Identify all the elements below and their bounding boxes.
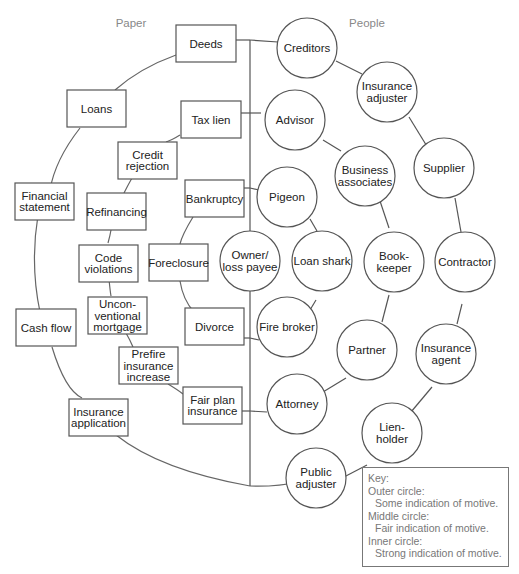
node-label: Foreclosure: [148, 257, 209, 269]
connector: [250, 338, 259, 340]
node-label: Cash flow: [21, 322, 72, 334]
node-label: Bankruptcy: [186, 193, 244, 205]
people-outer-creditors: Creditors: [277, 18, 337, 78]
node-label: application: [71, 417, 126, 429]
connector: [250, 40, 278, 42]
node-label: Code: [95, 252, 123, 264]
node-label: insurance: [188, 405, 238, 417]
paper-outer-cash-flow: Cash flow: [16, 309, 76, 346]
middle-ring-arc: [166, 135, 180, 142]
people-center-owner-loss-payee: Owner/loss payee: [220, 231, 280, 291]
node-label: Insurance: [362, 80, 413, 92]
node-label: Lien-: [379, 421, 405, 433]
inner-ring-arc: [180, 281, 194, 312]
connector: [411, 387, 432, 412]
paper-middle-credit-rejection: Creditrejection: [118, 142, 177, 179]
connector: [310, 219, 317, 231]
node-label: Public: [300, 466, 332, 478]
node-label: Fire broker: [259, 321, 315, 333]
key-middle-label: Middle circle:: [368, 510, 503, 523]
outer-ring-arc: [50, 128, 80, 190]
node-label: Prefire: [132, 348, 166, 360]
middle-ring-arc: [124, 178, 132, 193]
node-label: Contractor: [438, 256, 492, 268]
node-label: Insurance: [73, 406, 124, 418]
people-middle-bookkeeper: Book-keeper: [364, 232, 424, 292]
paper-middle-refinancing: Refinancing: [86, 193, 147, 230]
node-label: keeper: [376, 262, 411, 274]
paper-middle-unconventional-mortgage: Uncon-ventionalmortgage: [88, 297, 147, 334]
outer-ring-arc: [116, 435, 300, 486]
node-label: Advisor: [276, 114, 315, 126]
people-outer-lienholder: Lien-holder: [362, 403, 422, 463]
paper-inner-divorce: Divorce: [185, 308, 244, 345]
people-middle-advisor: Advisor: [265, 90, 325, 150]
connector: [323, 378, 346, 392]
connector: [380, 201, 389, 228]
connector: [457, 304, 462, 324]
legend-key: Key: Outer circle: Some indication of mo…: [362, 467, 509, 567]
people-outer-insurance-adjuster: Insuranceadjuster: [357, 62, 417, 122]
connector: [336, 61, 362, 74]
outer-ring-arc: [115, 55, 176, 90]
paper-outer-loans: Loans: [67, 90, 126, 127]
people-inner-loan-shark: Loan shark: [292, 231, 352, 291]
people-outer-supplier: Supplier: [414, 138, 474, 198]
node-label: Creditors: [284, 42, 331, 54]
paper-outer-deeds: Deeds: [176, 25, 236, 62]
node-label: Loans: [81, 103, 113, 115]
paper-outer-insurance-application: Insuranceapplication: [69, 399, 128, 436]
connector: [409, 117, 428, 148]
paper-inner-bankruptcy: Bankruptcy: [185, 180, 244, 217]
node-label: Uncon-: [99, 298, 136, 310]
middle-ring-arc: [126, 333, 133, 347]
node-label: Financial: [21, 190, 67, 202]
outer-ring-arc: [52, 347, 82, 398]
people-outer-contractor: Contractor: [435, 232, 495, 292]
connector: [382, 295, 389, 322]
people-inner-pigeon: Pigeon: [257, 167, 317, 227]
node-label: Refinancing: [86, 206, 147, 218]
key-title: Key:: [368, 472, 503, 485]
node-label: Loan shark: [294, 255, 351, 267]
nodes: DeedsLoansFinancialstatementCash flowIns…: [15, 18, 495, 508]
middle-ring-arc: [168, 384, 183, 394]
paper-middle-tax-lien: Tax lien: [181, 101, 241, 138]
node-label: adjuster: [296, 478, 337, 490]
paper-middle-fair-plan-insurance: Fair planinsurance: [183, 387, 242, 424]
outer-ring-arc: [34, 215, 40, 312]
node-label: Divorce: [195, 321, 234, 333]
node-label: ventional: [94, 310, 140, 322]
key-middle-desc: Fair indication of motive.: [368, 522, 503, 535]
key-outer-label: Outer circle:: [368, 485, 503, 498]
paper-middle-code-violations: Codeviolations: [79, 245, 138, 282]
paper-middle-prefire-insurance-increase: Prefireinsuranceincrease: [119, 347, 178, 384]
node-label: violations: [85, 263, 133, 275]
people-outer-public-adjuster: Publicadjuster: [286, 448, 346, 508]
paper-heading: Paper: [116, 17, 147, 29]
paper-inner-foreclosure: Foreclosure: [148, 244, 209, 281]
node-label: mortgage: [93, 321, 142, 333]
node-label: Owner/: [231, 249, 269, 261]
node-label: agent: [432, 354, 462, 366]
connector: [250, 411, 267, 412]
key-inner-label: Inner circle:: [368, 535, 503, 548]
people-inner-fire-broker: Fire broker: [257, 297, 317, 357]
node-label: Deeds: [189, 38, 222, 50]
node-label: associates: [338, 176, 393, 188]
node-label: adjuster: [367, 92, 408, 104]
node-label: Tax lien: [192, 114, 231, 126]
node-label: holder: [376, 433, 408, 445]
people-middle-attorney: Attorney: [267, 374, 327, 434]
node-label: Partner: [348, 344, 386, 356]
node-label: Book-: [379, 250, 409, 262]
people-middle-business-associates: Businessassociates: [335, 146, 395, 206]
middle-ring-arc: [108, 230, 111, 243]
node-label: Insurance: [421, 342, 472, 354]
paper-outer-financial-statement: Financialstatement: [15, 183, 74, 220]
node-label: Credit: [132, 149, 163, 161]
people-middle-partner: Partner: [337, 320, 397, 380]
node-label: Pigeon: [269, 191, 305, 203]
node-label: statement: [19, 201, 70, 213]
key-inner-desc: Strong indication of motive.: [368, 547, 503, 560]
